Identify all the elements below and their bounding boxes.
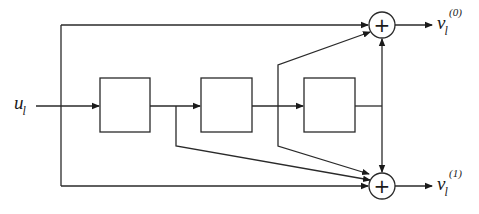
- input-label: ul: [14, 92, 27, 114]
- adder-bottom-plus: +: [374, 174, 391, 198]
- output-1-subscript: l: [444, 185, 447, 199]
- delay-block-3: [304, 78, 355, 132]
- encoder-diagram: + +: [0, 0, 479, 214]
- delay-block-2: [201, 78, 252, 132]
- adder-top-plus: +: [374, 13, 391, 37]
- output-1-superscript: (1): [449, 167, 462, 179]
- output-0-label: vl(0): [437, 12, 449, 34]
- input-subscript: l: [23, 104, 26, 118]
- output-0-superscript: (0): [449, 6, 462, 18]
- output-1-label: vl(1): [437, 173, 449, 195]
- delay-block-1: [100, 78, 150, 132]
- output-0-subscript: l: [444, 24, 447, 38]
